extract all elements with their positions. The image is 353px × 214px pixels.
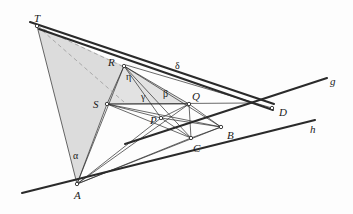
vertex-marker-C xyxy=(189,136,192,139)
angle-label-alpha: α xyxy=(73,151,78,161)
seg-C-B xyxy=(191,127,221,138)
point-label-C: C xyxy=(193,143,200,154)
vertex-marker-P xyxy=(159,116,162,119)
angle-label-eta: η xyxy=(126,72,131,82)
angle-label-beta: β xyxy=(163,89,168,99)
line-label-g: g xyxy=(330,76,336,87)
geometry-figure: T R S P Q A B C D g h δ α η γ β xyxy=(0,0,353,214)
vertex-marker-A xyxy=(75,182,78,185)
vertex-marker-B xyxy=(219,125,222,128)
vertex-marker-D xyxy=(270,106,273,109)
point-label-A: A xyxy=(74,190,81,201)
vertex-marker-T xyxy=(35,24,38,27)
point-label-B: B xyxy=(227,130,234,141)
point-label-R: R xyxy=(108,57,115,68)
line-label-h: h xyxy=(310,124,316,135)
figure-canvas xyxy=(0,0,353,214)
vertex-marker-Q xyxy=(187,102,190,105)
point-label-Q: Q xyxy=(192,91,200,102)
seg-S-B xyxy=(107,104,221,127)
line-label-delta: δ xyxy=(175,61,180,71)
point-label-S: S xyxy=(93,99,99,110)
vertex-marker-S xyxy=(105,102,108,105)
point-label-D: D xyxy=(279,107,287,118)
vertex-marker-R xyxy=(122,64,125,67)
seg-P-Q xyxy=(161,104,189,118)
angle-label-gamma: γ xyxy=(141,92,145,102)
point-label-P: P xyxy=(150,115,157,126)
point-label-T: T xyxy=(34,13,40,24)
